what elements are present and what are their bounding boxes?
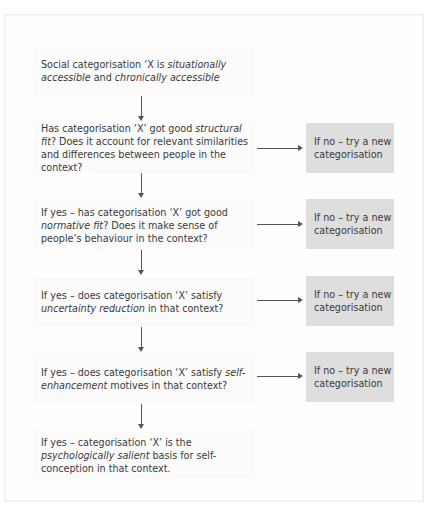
step-accessibility: Social categorisation ‘X is situationall…	[33, 46, 255, 96]
arrow-head-icon	[298, 373, 303, 379]
step-text: If yes – does categorisation ‘X’ satisfy…	[41, 366, 255, 392]
no-box-normative: If no – try a new categorisation	[306, 199, 394, 249]
arrow-head-icon	[138, 347, 144, 352]
arrow-head-icon	[298, 145, 303, 151]
arrow-head-icon	[138, 270, 144, 275]
step-normative-fit: If yes – has categorisation ‘X’ got good…	[33, 200, 255, 250]
arrow-head-icon	[298, 221, 303, 227]
arrow-head-icon	[298, 297, 303, 303]
step-self-enhancement: If yes – does categorisation ‘X’ satisfy…	[33, 354, 255, 404]
step-text: Has categorisation ‘X’ got good structur…	[41, 122, 255, 174]
step-text: If yes – does categorisation ‘X’ satisfy…	[41, 289, 255, 315]
arrow-head-icon	[138, 116, 144, 121]
no-box-self-enhancement: If no – try a new categorisation	[306, 352, 394, 402]
step-uncertainty-reduction: If yes – does categorisation ‘X’ satisfy…	[33, 277, 255, 327]
arrow-head-icon	[138, 193, 144, 198]
arrow-head-icon	[138, 424, 144, 429]
arrow-right-3	[257, 300, 300, 301]
step-text: If yes – categorisation ‘X’ is the psych…	[41, 436, 255, 475]
step-structural-fit: Has categorisation ‘X’ got good structur…	[33, 123, 255, 173]
arrow-right-4	[257, 376, 300, 377]
step-text: If yes – has categorisation ‘X’ got good…	[41, 206, 255, 245]
step-text: Social categorisation ‘X is situationall…	[41, 58, 255, 84]
no-box-uncertainty: If no – try a new categorisation	[306, 276, 394, 326]
arrow-right-2	[257, 224, 300, 225]
arrow-right-1	[257, 148, 300, 149]
step-psychological-salience: If yes – categorisation ‘X’ is the psych…	[33, 431, 255, 479]
no-box-structural: If no – try a new categorisation	[306, 123, 394, 173]
